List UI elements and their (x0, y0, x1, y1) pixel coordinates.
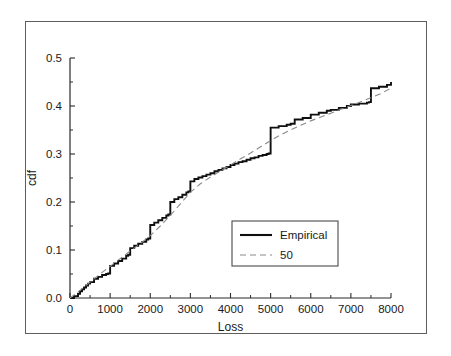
y-tick-label: 0.5 (46, 52, 62, 64)
x-tick-label: 0 (67, 303, 73, 315)
series-empirical (70, 82, 391, 298)
y-axis-title: cdf (25, 169, 39, 186)
x-tick-label: 3000 (178, 303, 204, 315)
x-tick-label: 8000 (378, 303, 404, 315)
y-tick-label: 0.2 (46, 196, 62, 208)
figure-root: 0100020003000400050006000700080000.00.10… (0, 0, 451, 356)
axes-group: 0100020003000400050006000700080000.00.10… (46, 52, 404, 315)
legend-group[interactable]: Empirical50 (232, 221, 338, 266)
y-tick-label: 0.4 (46, 100, 63, 112)
x-tick-label: 6000 (298, 303, 324, 315)
cdf-chart: 0100020003000400050006000700080000.00.10… (0, 0, 451, 356)
x-tick-label: 2000 (137, 303, 163, 315)
x-tick-label: 4000 (218, 303, 244, 315)
y-tick-label: 0.1 (46, 244, 62, 256)
legend-label-empirical[interactable]: Empirical (280, 229, 327, 241)
series-50 (70, 88, 391, 298)
y-tick-label: 0.3 (46, 148, 62, 160)
x-tick-label: 7000 (338, 303, 364, 315)
x-tick-label: 1000 (97, 303, 123, 315)
series-group (70, 82, 391, 298)
y-tick-label: 0.0 (46, 292, 62, 304)
x-tick-label: 5000 (258, 303, 284, 315)
x-axis-title: Loss (218, 320, 243, 334)
legend-label-50[interactable]: 50 (280, 249, 293, 261)
